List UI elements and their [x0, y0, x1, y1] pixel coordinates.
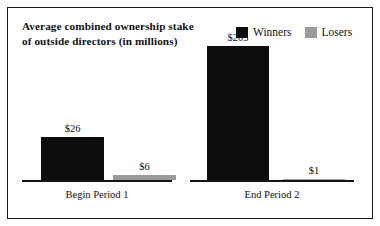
- bar-group-begin-period-1: $26 $6 Begin Period 1: [22, 8, 172, 220]
- plot-area: $26 $6 Begin Period 1 $205 $1 End Period…: [8, 8, 374, 220]
- bar-group-end-period-2: $205 $1 End Period 2: [190, 8, 354, 220]
- chart-figure: Average combined ownership stake of outs…: [0, 0, 380, 226]
- bar-value-losers-begin-period-1: $6: [113, 161, 176, 172]
- bar-value-winners-end-period-2: $205: [203, 32, 273, 43]
- category-label-begin-period-1: Begin Period 1: [22, 189, 172, 200]
- bar-winners-begin-period-1: [41, 137, 104, 180]
- bar-winners-end-period-2: [207, 46, 269, 180]
- category-label-end-period-2: End Period 2: [190, 189, 354, 200]
- bar-value-losers-end-period-2: $1: [283, 165, 345, 176]
- chart-frame: Average combined ownership stake of outs…: [7, 7, 373, 219]
- bar-losers-end-period-2: [283, 179, 345, 181]
- bar-value-winners-begin-period-1: $26: [41, 123, 104, 134]
- bar-losers-begin-period-1: [113, 175, 176, 180]
